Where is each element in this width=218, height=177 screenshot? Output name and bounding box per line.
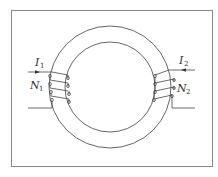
arrow-left-icon: [181, 68, 186, 71]
label-I1: I 1: [34, 56, 44, 70]
label-N2: N 2: [176, 82, 190, 96]
core-inner-circle: [65, 42, 155, 132]
svg-text:2: 2: [186, 88, 190, 96]
arrow-right-icon: [35, 70, 40, 73]
label-I2: I 2: [178, 54, 188, 68]
svg-text:2: 2: [184, 60, 188, 68]
label-N1: N 1: [29, 79, 43, 93]
svg-text:1: 1: [39, 85, 43, 93]
toroid-diagram: I 1 N 1 I 2 N 2: [0, 0, 218, 177]
svg-text:1: 1: [40, 62, 44, 70]
